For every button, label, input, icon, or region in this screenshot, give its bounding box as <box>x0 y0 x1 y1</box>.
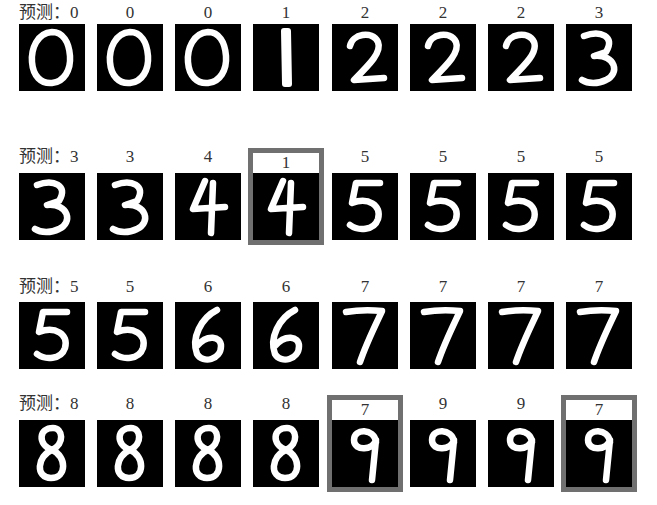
handwritten-digit-5 <box>115 312 145 358</box>
digit-image <box>332 302 398 369</box>
prediction-label: 1 <box>253 4 319 22</box>
digit-image <box>566 302 632 369</box>
handwritten-digit-5 <box>37 312 67 358</box>
prediction-label: 4 <box>175 148 241 166</box>
prediction-value: 5 <box>70 277 79 296</box>
handwritten-digit-0 <box>32 32 70 83</box>
prediction-value: 3 <box>70 147 79 166</box>
handwritten-digit-8 <box>274 428 297 478</box>
digit-image <box>332 24 398 91</box>
digit-image <box>175 24 241 91</box>
prediction-label: 8 <box>175 395 241 413</box>
prediction-prefix: 预测： <box>19 277 70 296</box>
prediction-label: 3 <box>97 148 163 166</box>
handwritten-digit-7 <box>580 310 616 362</box>
prediction-label: 7 <box>566 278 632 296</box>
digit-image <box>175 173 241 240</box>
digit-image <box>97 420 163 487</box>
prediction-label: 1 <box>253 153 319 173</box>
prediction-value: 0 <box>70 3 79 22</box>
prediction-label: 预测：3 <box>18 148 98 166</box>
prediction-label: 3 <box>566 4 632 22</box>
prediction-label: 预测：5 <box>18 278 98 296</box>
prediction-label: 预测：8 <box>18 395 98 413</box>
handwritten-digit-8 <box>196 428 219 478</box>
prediction-label: 9 <box>488 395 554 413</box>
handwritten-digit-9 <box>588 431 610 480</box>
handwritten-digit-3 <box>113 183 145 232</box>
prediction-label: 8 <box>253 395 319 413</box>
handwritten-digit-5 <box>428 183 458 229</box>
handwritten-digit-8 <box>40 428 63 478</box>
digit-image <box>488 24 554 91</box>
digit-image <box>566 24 632 91</box>
prediction-prefix: 预测： <box>19 147 70 166</box>
digit-image <box>97 24 163 91</box>
handwritten-digit-6 <box>273 310 299 360</box>
digit-image <box>410 420 476 487</box>
prediction-label: 2 <box>488 4 554 22</box>
prediction-label: 7 <box>488 278 554 296</box>
handwritten-digit-7 <box>346 310 382 362</box>
handwritten-digit-4 <box>271 181 303 233</box>
prediction-label: 7 <box>410 278 476 296</box>
digit-image <box>332 420 398 487</box>
handwritten-digit-2 <box>428 35 462 80</box>
digit-image <box>253 24 319 91</box>
handwritten-digit-8 <box>118 428 141 478</box>
prediction-prefix: 预测： <box>19 3 70 22</box>
handwritten-digit-4 <box>193 181 225 233</box>
digit-image <box>175 302 241 369</box>
digit-image <box>97 173 163 240</box>
digit-image <box>19 420 85 487</box>
handwritten-digit-0 <box>188 32 226 83</box>
handwritten-digit-6 <box>195 310 221 360</box>
prediction-label: 5 <box>410 148 476 166</box>
prediction-label: 7 <box>332 400 398 420</box>
handwritten-digit-3 <box>35 183 67 232</box>
handwritten-digit-2 <box>350 35 384 80</box>
digit-image <box>566 420 632 487</box>
digit-image <box>332 173 398 240</box>
digit-image <box>410 24 476 91</box>
handwritten-digit-9 <box>510 431 532 480</box>
digit-image <box>19 24 85 91</box>
prediction-label: 2 <box>410 4 476 22</box>
prediction-label: 2 <box>332 4 398 22</box>
digit-image <box>488 420 554 487</box>
prediction-label: 5 <box>97 278 163 296</box>
handwritten-digit-5 <box>584 183 614 229</box>
handwritten-digit-0 <box>110 32 148 83</box>
prediction-value: 8 <box>70 394 79 413</box>
digit-image <box>253 302 319 369</box>
digit-image <box>488 302 554 369</box>
prediction-label: 预测：0 <box>18 4 98 22</box>
handwritten-digit-9 <box>354 431 376 480</box>
digit-image <box>175 420 241 487</box>
handwritten-digit-3 <box>582 34 614 83</box>
handwritten-digit-2 <box>506 35 540 80</box>
digit-image <box>253 173 319 240</box>
prediction-label: 5 <box>332 148 398 166</box>
prediction-label: 6 <box>175 278 241 296</box>
digit-image <box>253 420 319 487</box>
digit-image <box>97 302 163 369</box>
digit-image <box>19 173 85 240</box>
prediction-label: 0 <box>175 4 241 22</box>
handwritten-digit-5 <box>506 183 536 229</box>
handwritten-digit-5 <box>350 183 380 229</box>
digit-image <box>566 173 632 240</box>
prediction-label: 7 <box>566 400 632 420</box>
digit-image <box>488 173 554 240</box>
prediction-label: 5 <box>488 148 554 166</box>
prediction-label: 0 <box>97 4 163 22</box>
prediction-label: 8 <box>97 395 163 413</box>
handwritten-digit-7 <box>502 310 538 362</box>
handwritten-digit-7 <box>424 310 460 362</box>
digit-image <box>19 302 85 369</box>
digit-image <box>410 173 476 240</box>
prediction-label: 9 <box>410 395 476 413</box>
prediction-label: 5 <box>566 148 632 166</box>
prediction-label: 7 <box>332 278 398 296</box>
prediction-label: 6 <box>253 278 319 296</box>
